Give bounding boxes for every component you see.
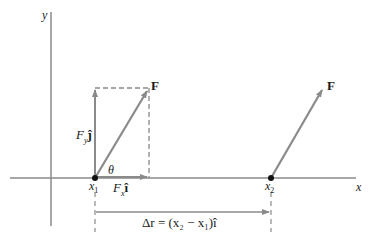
work-diagram: y x F F Fyĵ Fxî θ x1 x2 Δr = (x₂ − x₁)î (0, 0, 373, 238)
force-arrow-left (95, 91, 147, 178)
force-label-right: F (327, 79, 335, 92)
x2-label: x2 (265, 180, 274, 195)
y-axis-label: y (42, 9, 47, 21)
diagram-svg (0, 0, 373, 238)
fy-component-label: Fyĵ (76, 128, 92, 145)
displacement-label: Δr = (x₂ − x₁)î (142, 216, 217, 229)
x1-label: x1 (89, 180, 98, 195)
force-label-left: F (151, 79, 159, 92)
force-arrow-right (271, 90, 322, 178)
fx-component-label: Fxî (113, 181, 128, 198)
theta-label: θ (108, 164, 114, 176)
x-axis-label: x (356, 181, 361, 193)
